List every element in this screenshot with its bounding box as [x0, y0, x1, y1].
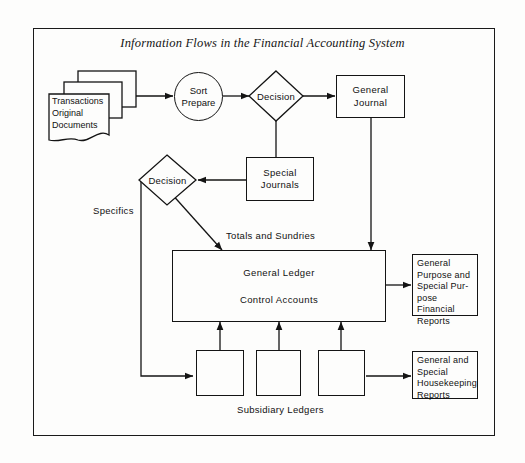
- subsidiary-ledger-box-3[interactable]: [318, 350, 365, 396]
- subsidiary-ledgers-label: Subsidiary Ledgers: [237, 404, 324, 415]
- subsidiary-ledger-box-1[interactable]: [196, 350, 244, 396]
- subsidiary-ledger-box-2[interactable]: [256, 350, 301, 396]
- decision-two-node[interactable]: Decision: [139, 155, 196, 205]
- totals-and-sundries-label: Totals and Sundries: [226, 230, 315, 241]
- general-ledger-node[interactable]: General Ledger Control Accounts: [172, 250, 386, 322]
- diagram-page: Information Flows in the Financial Accou…: [0, 0, 525, 463]
- housekeeping-reports-node[interactable]: General and Special Housekeeping Reports: [412, 351, 478, 399]
- transactions-label: Transactions Original Documents: [52, 95, 114, 131]
- diagram-title: Information Flows in the Financial Accou…: [0, 36, 525, 51]
- general-ledger-line-1: General Ledger: [173, 267, 385, 280]
- specifics-label: Specifics: [93, 205, 134, 216]
- special-journals-node[interactable]: Special Journals: [246, 157, 314, 201]
- sort-prepare-node[interactable]: Sort Prepare: [174, 72, 223, 121]
- decision-one-node[interactable]: Decision: [249, 71, 303, 121]
- general-journal-node[interactable]: General Journal: [336, 75, 405, 118]
- financial-reports-node[interactable]: General Purpose and Special Pur- pose Fi…: [412, 254, 478, 316]
- general-ledger-line-2: Control Accounts: [173, 294, 385, 307]
